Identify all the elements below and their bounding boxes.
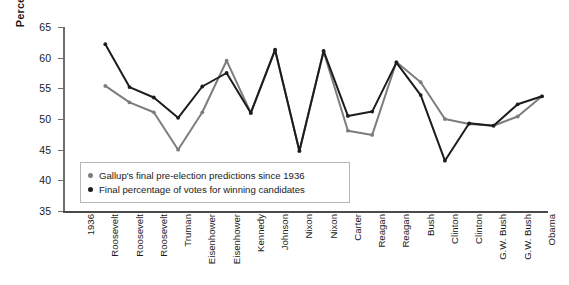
- data-point: [128, 85, 132, 89]
- data-point: [346, 129, 350, 133]
- x-tick-label: Roosevelt: [158, 214, 169, 257]
- x-tick-label: G.W. Bush: [497, 214, 508, 260]
- x-axis-labels: 1936RooseveltRooseveltRooseveltTrumanEis…: [63, 214, 548, 284]
- series-line: [105, 44, 542, 161]
- data-point: [176, 148, 180, 152]
- data-point: [516, 102, 520, 106]
- x-tick-label: 1936: [85, 214, 96, 235]
- x-tick-label: Nixon: [303, 214, 314, 239]
- data-point: [298, 149, 302, 153]
- data-point: [467, 121, 471, 125]
- data-point: [419, 80, 423, 84]
- y-tick-label: 65: [39, 21, 51, 33]
- data-point: [249, 111, 253, 115]
- y-axis-title: Percentage: [14, 0, 26, 52]
- x-tick-label: Bush: [425, 214, 436, 236]
- data-point: [103, 42, 107, 46]
- data-point: [443, 159, 447, 163]
- x-tick-label: Truman: [182, 214, 193, 247]
- y-tick-label: 45: [39, 144, 51, 156]
- data-point: [152, 96, 156, 100]
- legend-item: Final percentage of votes for winning ca…: [88, 183, 342, 196]
- series-line: [105, 50, 542, 151]
- x-tick-label: Clinton: [473, 214, 484, 244]
- data-point: [370, 133, 374, 137]
- x-tick-label: Eisenhower: [231, 214, 242, 264]
- x-tick-label: Reagan: [400, 214, 411, 248]
- x-tick-label: Nixon: [328, 214, 339, 239]
- x-tick-label: Reagan: [376, 214, 387, 248]
- data-point: [370, 110, 374, 114]
- data-point: [176, 116, 180, 120]
- data-point: [152, 110, 156, 114]
- x-tick-label: Carter: [352, 214, 363, 241]
- legend-label: Gallup's final pre-election predictions …: [99, 170, 305, 181]
- x-tick-label: Obama: [546, 214, 557, 245]
- y-tick-label: 55: [39, 82, 51, 94]
- x-tick-label: G.W. Bush: [522, 214, 533, 260]
- x-tick-label: Eisenhower: [206, 214, 217, 264]
- data-point: [322, 49, 326, 53]
- y-tick-label: 35: [39, 205, 51, 217]
- x-tick-label: Roosevelt: [134, 214, 145, 257]
- data-point: [225, 71, 229, 75]
- legend-marker-icon: [88, 187, 93, 192]
- data-point: [103, 84, 107, 88]
- y-tick: 35: [58, 211, 63, 212]
- data-point: [346, 114, 350, 118]
- data-point: [540, 94, 544, 98]
- x-tick-label: Johnson: [279, 214, 290, 250]
- chart-legend: Gallup's final pre-election predictions …: [80, 162, 350, 203]
- data-point: [395, 61, 399, 65]
- y-tick-label: 50: [39, 113, 51, 125]
- data-point: [200, 110, 204, 114]
- data-point: [443, 117, 447, 121]
- data-point: [128, 101, 132, 105]
- y-tick-label: 40: [39, 174, 51, 186]
- data-point: [516, 115, 520, 119]
- legend-label: Final percentage of votes for winning ca…: [99, 184, 305, 195]
- x-tick-label: Clinton: [449, 214, 460, 244]
- legend-item: Gallup's final pre-election predictions …: [88, 169, 342, 182]
- data-point: [492, 124, 496, 128]
- data-point: [419, 93, 423, 97]
- data-point: [200, 85, 204, 89]
- plot-area: 35404550556065 Gallup's final pre-electi…: [63, 20, 548, 210]
- legend-marker-icon: [88, 173, 93, 178]
- y-tick-label: 60: [39, 52, 51, 64]
- chart-container: Percentage 35404550556065 Gallup's final…: [0, 0, 569, 285]
- data-point: [225, 59, 229, 63]
- data-point: [273, 48, 277, 52]
- x-tick-label: Kennedy: [255, 214, 266, 252]
- x-tick-label: Roosevelt: [109, 214, 120, 257]
